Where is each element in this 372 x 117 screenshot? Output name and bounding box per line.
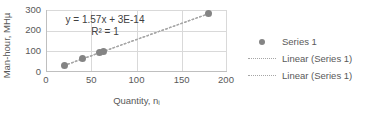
y-axis-title: Man-hour, MHµ <box>0 0 14 90</box>
x-tick-label: 200 <box>218 74 234 85</box>
x-tick-label: 100 <box>129 74 145 85</box>
y-axis-title-label: Man-hour, MHµ <box>2 12 13 78</box>
x-tick-label: 150 <box>174 74 190 85</box>
legend-item-label: Linear (Series 1) <box>279 53 352 64</box>
data-point <box>100 48 107 55</box>
legend-item[interactable]: Linear (Series 1) <box>245 67 370 84</box>
equation-text: y = 1.57x + 3E-14 <box>55 14 155 26</box>
data-point <box>61 62 68 69</box>
legend-item-label: Series 1 <box>279 36 317 47</box>
x-axis-tick-labels: 0 50 100 150 200 <box>46 74 227 86</box>
r-squared-text: R² = 1 <box>55 26 155 38</box>
legend-dotted-line-icon <box>248 75 276 76</box>
y-tick-label: 200 <box>25 25 41 35</box>
legend-item[interactable]: Series 1 <box>245 33 370 50</box>
legend-dotted-line-icon <box>248 58 276 59</box>
x-tick-label: 50 <box>86 74 97 85</box>
legend-item-label: Linear (Series 1) <box>279 70 352 81</box>
legend-key <box>245 70 279 82</box>
trendline-equation-annotation: y = 1.57x + 3E-14 R² = 1 <box>55 14 155 38</box>
legend-marker-dot-icon <box>259 39 265 45</box>
y-tick-label: 0 <box>36 67 41 77</box>
legend-key <box>245 36 279 48</box>
x-tick-label: 0 <box>43 74 48 85</box>
chart-legend: Series 1Linear (Series 1)Linear (Series … <box>245 33 370 84</box>
y-axis-tick-labels: 300 200 100 0 <box>13 5 43 77</box>
x-axis-title: Quantity, nᵢ <box>46 95 227 106</box>
y-tick-label: 300 <box>25 5 41 15</box>
chart-container: Man-hour, MHµ 300 200 100 0 y = 1.57x + … <box>0 0 372 117</box>
legend-key <box>245 53 279 65</box>
y-tick-label: 100 <box>25 46 41 56</box>
legend-item[interactable]: Linear (Series 1) <box>245 50 370 67</box>
